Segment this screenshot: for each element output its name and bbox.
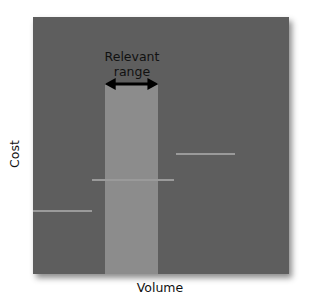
step-cost-segment-3 [176,153,235,155]
step-cost-segment-1 [33,210,92,212]
y-axis-label: Cost [4,134,24,174]
y-axis-label-text: Cost [7,140,22,168]
step-cost-segment-2 [92,179,174,181]
relevant-range-label-line2: range [96,64,168,79]
relevant-range-label: Relevant range [96,49,168,79]
x-axis-label: Volume [120,280,200,295]
relevant-range-label-line1: Relevant [96,49,168,64]
